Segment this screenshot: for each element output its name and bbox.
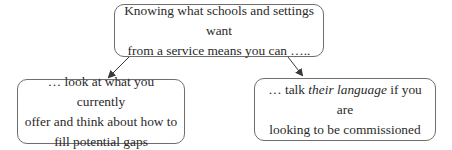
right-box-line-1-pre: … talk xyxy=(268,82,308,97)
right-box-line-1: … talk their language if you are xyxy=(263,80,427,120)
right-box: … talk their language if you are looking… xyxy=(254,78,436,141)
top-box-line-1: Knowing what schools and settings want xyxy=(123,1,315,41)
right-box-line-2: looking to be commissioned xyxy=(263,120,427,140)
left-box: … look at what you currently offer and t… xyxy=(17,79,185,144)
left-box-line-2: offer and think about how to xyxy=(24,112,178,132)
left-box-line-3: fill potential gaps xyxy=(24,132,178,150)
right-box-emphasis: their language xyxy=(308,82,386,97)
left-box-line-1: … look at what you currently xyxy=(24,72,178,112)
top-box-line-2: from a service means you can ….. xyxy=(123,41,315,61)
top-box: Knowing what schools and settings want f… xyxy=(114,4,324,57)
